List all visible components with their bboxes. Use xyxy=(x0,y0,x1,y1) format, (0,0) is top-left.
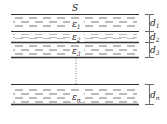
plate-area-label: S xyxy=(72,3,78,13)
d-n-label: dn xyxy=(150,90,160,101)
d-2-label: d2 xyxy=(150,32,160,43)
layered-dielectric-diagram: S ε1 ε2 ε3 εn d1 d2 d3 dn xyxy=(0,0,167,124)
d-1-label: d1 xyxy=(150,18,160,29)
d-3-label: d3 xyxy=(150,45,160,56)
